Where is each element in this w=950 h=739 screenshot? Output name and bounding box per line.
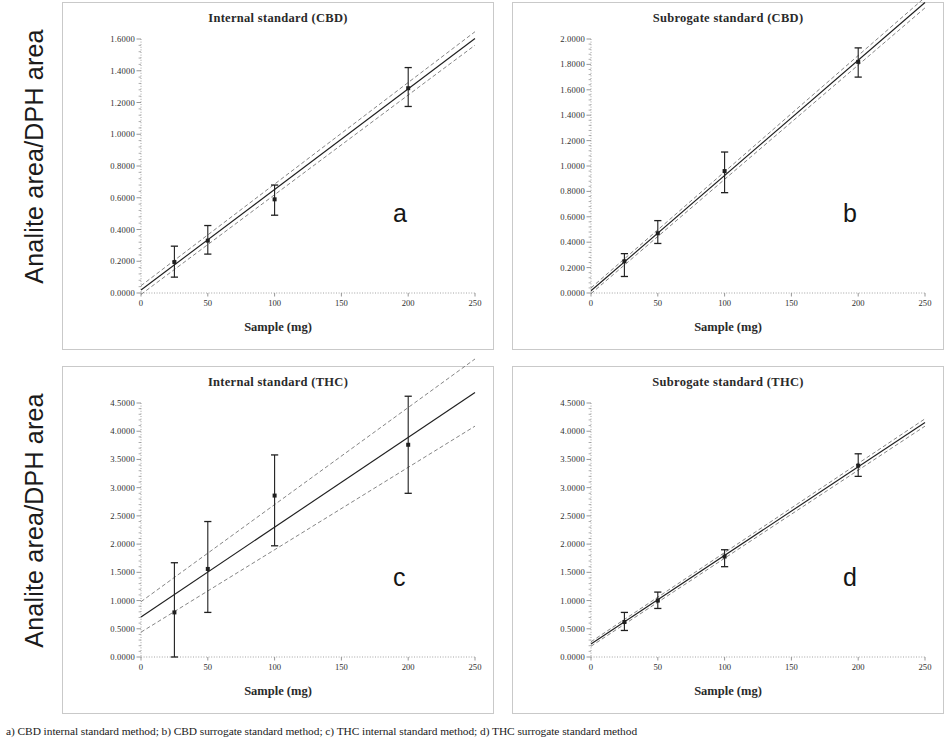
- x-tick-label: 50: [654, 298, 663, 308]
- y-axis-label-bottom: Analite area/DPH area: [20, 361, 49, 681]
- x-tick-label: 50: [654, 662, 663, 672]
- confidence-upper-line: [591, 419, 925, 642]
- confidence-upper-line: [591, 0, 925, 288]
- confidence-lower-line: [591, 8, 925, 294]
- chart-svg-d: [591, 403, 925, 657]
- x-tick-label: 200: [852, 662, 865, 672]
- y-tick-label: 3.5000: [560, 454, 585, 464]
- y-tick-label: 0.8000: [110, 161, 135, 171]
- x-tick-label: 100: [718, 662, 731, 672]
- y-tick-label: 1.4000: [560, 110, 585, 120]
- data-point-group: [204, 226, 211, 255]
- data-marker: [273, 494, 277, 498]
- data-point-group: [721, 152, 728, 193]
- data-marker: [856, 464, 860, 468]
- chart-panel-d: Subrogate standard (THC) 0.00000.50001.0…: [512, 366, 944, 714]
- data-marker: [622, 620, 626, 624]
- y-tick-label: 0.0000: [560, 288, 585, 298]
- confidence-lower-line: [141, 426, 475, 632]
- x-tick-label: 250: [469, 298, 482, 308]
- x-axis-label-b: Sample (mg): [513, 320, 943, 335]
- chart-title-c: Internal standard (THC): [63, 375, 493, 390]
- x-tick-label: 50: [204, 298, 213, 308]
- x-tick-label: 0: [589, 662, 593, 672]
- y-tick-label: 0.0000: [560, 652, 585, 662]
- chart-svg-b: [591, 39, 925, 293]
- y-tick-label: 1.8000: [560, 59, 585, 69]
- y-tick-label: 1.0000: [110, 129, 135, 139]
- data-marker: [206, 239, 210, 243]
- data-point-group: [405, 396, 412, 493]
- x-tick-label: 150: [335, 662, 348, 672]
- y-tick-label: 1.0000: [560, 161, 585, 171]
- x-tick-label: 150: [785, 662, 798, 672]
- regression-line: [141, 393, 475, 617]
- y-tick-label: 1.5000: [560, 567, 585, 577]
- data-marker: [273, 197, 277, 201]
- x-tick-label: 0: [589, 298, 593, 308]
- chart-title-b: Subrogate standard (CBD): [513, 11, 943, 26]
- regression-line: [591, 422, 925, 644]
- data-point-group: [204, 522, 211, 613]
- panel-letter-a: a: [393, 199, 407, 228]
- y-tick-label: 2.5000: [560, 511, 585, 521]
- x-tick-label: 250: [919, 298, 932, 308]
- data-marker: [172, 610, 176, 614]
- data-point-group: [654, 592, 661, 608]
- x-tick-label: 200: [402, 662, 415, 672]
- figure-panel-grid: Analite area/DPH area Internal standard …: [0, 0, 950, 739]
- y-tick-label: 1.0000: [560, 596, 585, 606]
- y-tick-label: 4.0000: [560, 426, 585, 436]
- plot-area-c: 0.00000.50001.00001.50002.00002.50003.00…: [141, 403, 475, 657]
- x-tick-label: 150: [785, 298, 798, 308]
- y-tick-label: 2.0000: [560, 539, 585, 549]
- data-marker: [172, 260, 176, 264]
- x-tick-label: 100: [268, 662, 281, 672]
- figure-row-cbd: Analite area/DPH area Internal standard …: [0, 2, 950, 354]
- y-tick-label: 0.6000: [110, 193, 135, 203]
- x-tick-label: 200: [402, 298, 415, 308]
- y-tick-label: 2.0000: [560, 34, 585, 44]
- x-tick-label: 100: [718, 298, 731, 308]
- panel-letter-d: d: [843, 563, 857, 592]
- y-tick-label: 0.6000: [560, 212, 585, 222]
- y-tick-label: 1.6000: [560, 85, 585, 95]
- y-tick-label: 0.5000: [560, 624, 585, 634]
- x-tick-label: 250: [919, 662, 932, 672]
- data-point-group: [721, 550, 728, 567]
- x-tick-label: 100: [268, 298, 281, 308]
- panel-letter-b: b: [843, 199, 857, 228]
- regression-line: [591, 2, 925, 290]
- x-axis-label-c: Sample (mg): [63, 684, 493, 699]
- regression-line: [141, 38, 475, 290]
- chart-panel-c: Internal standard (THC) 0.00000.50001.00…: [62, 366, 494, 714]
- y-tick-label: 4.5000: [110, 398, 135, 408]
- y-tick-label: 1.0000: [110, 596, 135, 606]
- y-tick-label: 1.2000: [560, 136, 585, 146]
- plot-area-b: 0.00000.20000.40000.60000.80001.00001.20…: [591, 39, 925, 293]
- y-tick-label: 0.4000: [560, 237, 585, 247]
- data-point-group: [171, 246, 178, 277]
- plot-area-d: 0.00000.50001.00001.50002.00002.50003.00…: [591, 403, 925, 657]
- y-tick-label: 0.8000: [560, 186, 585, 196]
- x-tick-label: 250: [469, 662, 482, 672]
- chart-panel-a: Internal standard (CBD) 0.00000.20000.40…: [62, 2, 494, 350]
- data-marker: [622, 259, 626, 263]
- data-point-group: [271, 185, 278, 215]
- x-tick-label: 0: [139, 298, 143, 308]
- y-tick-label: 0.0000: [110, 288, 135, 298]
- data-marker: [856, 60, 860, 64]
- data-point-group: [271, 455, 278, 546]
- panel-letter-c: c: [393, 563, 406, 592]
- data-marker: [656, 599, 660, 603]
- data-marker: [406, 86, 410, 90]
- figure-caption: a) CBD internal standard method; b) CBD …: [0, 724, 950, 739]
- x-tick-label: 0: [139, 662, 143, 672]
- chart-svg-c: [141, 403, 475, 657]
- data-marker: [406, 443, 410, 447]
- x-tick-label: 150: [335, 298, 348, 308]
- data-marker: [723, 555, 727, 559]
- y-tick-label: 0.2000: [110, 256, 135, 266]
- y-tick-label: 0.4000: [110, 225, 135, 235]
- x-axis-label-d: Sample (mg): [513, 684, 943, 699]
